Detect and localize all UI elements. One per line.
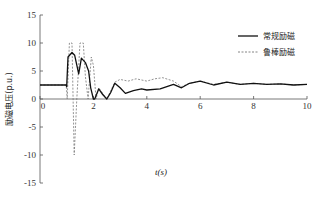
series-conventional-line [40, 53, 307, 100]
y-tick-label: 15 [27, 10, 37, 20]
y-tick-label: -5 [29, 122, 37, 132]
x-ticks: 0246810 [40, 96, 312, 111]
y-tick-label: 10 [27, 38, 37, 48]
line-chart: -15-10-5051015 0246810 常规励磁 鲁棒励磁 t(s) 励磁… [0, 0, 318, 201]
x-tick-label: 0 [41, 101, 46, 111]
x-tick-label: 6 [198, 101, 203, 111]
x-tick-label: 8 [251, 101, 256, 111]
x-axis-title: t(s) [155, 167, 167, 177]
x-tick-label: 2 [91, 101, 96, 111]
y-tick-label: -10 [24, 150, 36, 160]
y-tick-label: 0 [32, 94, 37, 104]
y-tick-label: 5 [32, 66, 37, 76]
legend-label-conventional: 常规励磁 [263, 31, 295, 41]
legend-label-robust: 鲁棒励磁 [263, 47, 295, 57]
x-tick-label: 4 [145, 101, 150, 111]
y-tick-label: -15 [24, 178, 36, 188]
x-tick-label: 10 [303, 101, 313, 111]
y-axis-title: 励磁电压(p.u.) [4, 72, 14, 125]
legend: 常规励磁 鲁棒励磁 [238, 31, 295, 57]
